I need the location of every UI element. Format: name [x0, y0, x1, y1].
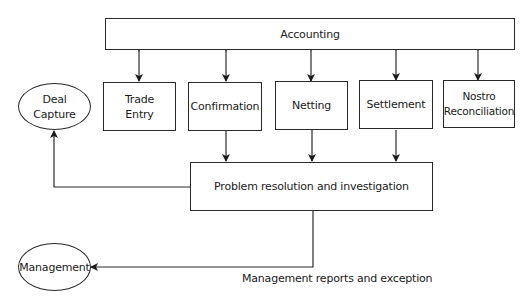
management-reports-edge-label: Management reports and exception: [242, 272, 432, 285]
settlement-box: Settlement: [359, 80, 433, 129]
deal-capture-label: Deal Capture: [33, 92, 75, 122]
settlement-label: Settlement: [367, 97, 426, 112]
problem-resolution-box: Problem resolution and investigation: [190, 162, 433, 211]
arrow-problem-deal-capture: [54, 131, 190, 187]
trade-entry-label: Trade Entry: [125, 92, 154, 122]
netting-label: Netting: [292, 98, 331, 113]
accounting-label: Accounting: [280, 27, 339, 42]
netting-box: Netting: [275, 81, 348, 130]
confirmation-box: Confirmation: [188, 82, 262, 131]
trade-entry-box: Trade Entry: [103, 82, 176, 131]
management-label: Management: [19, 260, 89, 275]
arrow-problem-management: [91, 210, 313, 267]
deal-capture-ellipse: Deal Capture: [18, 83, 91, 130]
confirmation-label: Confirmation: [191, 99, 260, 114]
nostro-reconciliation-box: Nostro Reconciliation: [443, 80, 515, 128]
accounting-box: Accounting: [105, 18, 515, 50]
nostro-reconciliation-label: Nostro Reconciliation: [444, 89, 514, 119]
problem-resolution-label: Problem resolution and investigation: [214, 179, 409, 194]
management-ellipse: Management: [18, 243, 91, 291]
